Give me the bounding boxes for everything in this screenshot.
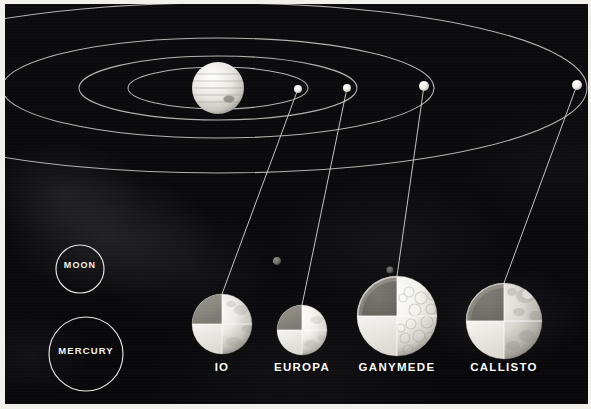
moon-sphere-europa bbox=[277, 305, 327, 355]
moon-caption-ganymede: GANYMEDE bbox=[337, 361, 457, 373]
moon-sphere-ganymede bbox=[357, 276, 437, 356]
moon-caption-callisto: CALLISTO bbox=[449, 361, 559, 373]
callisto-leader bbox=[504, 85, 577, 283]
distant-moon-1 bbox=[273, 257, 281, 265]
orbit-dot-europa bbox=[343, 84, 351, 92]
diagram-vector-layer bbox=[5, 4, 588, 404]
moon-sphere-io bbox=[192, 294, 254, 354]
orbit-dot-callisto bbox=[572, 80, 582, 90]
moon-sphere-callisto bbox=[466, 283, 543, 359]
jupiter bbox=[192, 62, 244, 114]
orbit-dot-ganymede bbox=[419, 81, 429, 91]
distant-moon-2 bbox=[387, 267, 394, 274]
background-dots bbox=[273, 257, 394, 274]
orbit-dot-io bbox=[294, 85, 302, 93]
europa-leader bbox=[302, 88, 347, 305]
reference-label-moon: MOON bbox=[53, 260, 107, 270]
great-red-spot bbox=[224, 96, 235, 103]
orbit-dots bbox=[294, 80, 582, 93]
leader-lines bbox=[222, 85, 577, 305]
diagram-plate: MOON MERCURY IO EUROPA GANYMEDE CALLISTO bbox=[5, 4, 588, 404]
reference-label-mercury: MERCURY bbox=[40, 345, 132, 356]
scanned-page: MOON MERCURY IO EUROPA GANYMEDE CALLISTO bbox=[0, 0, 591, 409]
